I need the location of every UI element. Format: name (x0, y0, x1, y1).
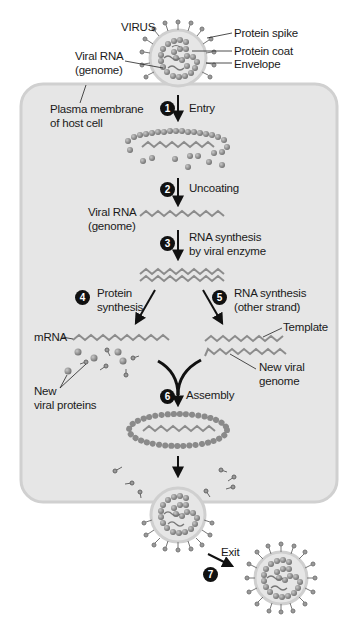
released-virus-icon (245, 542, 317, 614)
label-new-viral-proteins-2: viral proteins (34, 399, 96, 412)
step-5-label-1: RNA synthesis (234, 287, 306, 300)
label-plasma-membrane-1: Plasma membrane (50, 103, 144, 116)
label-new-viral-genome-1: New viral (259, 361, 305, 374)
label-protein-spike: Protein spike (234, 27, 298, 40)
label-new-viral-genome-2: genome (259, 375, 299, 388)
label-viral-rna-top-1: Viral RNA (75, 50, 123, 63)
step-6-label: Assembly (186, 389, 234, 402)
label-viral-rna-2: (genome) (88, 220, 136, 233)
label-viral-rna-top-2: (genome) (75, 64, 123, 77)
step-2-label: Uncoating (189, 182, 239, 195)
step-5-label-2: (other strand) (234, 301, 300, 314)
step-4-label-2: synthesis (97, 301, 143, 314)
step-2-badge: 2 (160, 182, 175, 197)
diagram-canvas (0, 0, 358, 617)
virus-title: VIRUS (121, 21, 155, 34)
label-mrna: mRNA (34, 331, 67, 344)
step-4-badge: 4 (75, 290, 90, 305)
step-7-badge: 7 (203, 567, 218, 582)
label-protein-coat: Protein coat (234, 45, 293, 58)
step-1-badge: 1 (160, 101, 175, 116)
step-6-badge: 6 (160, 389, 175, 404)
step-5-badge: 5 (212, 290, 227, 305)
step-3-badge: 3 (160, 236, 175, 251)
label-plasma-membrane-2: of host cell (50, 117, 103, 130)
step-4-label-1: Protein (97, 287, 132, 300)
step-1-label: Entry (189, 102, 215, 115)
label-envelope: Envelope (234, 58, 280, 71)
step-3-label-2: by viral enzyme (189, 245, 266, 258)
step-7-label: Exit (221, 546, 239, 559)
label-viral-rna-1: Viral RNA (88, 206, 136, 219)
step-3-label-1: RNA synthesis (189, 231, 261, 244)
label-new-viral-proteins-1: New (34, 385, 56, 398)
label-template: Template (283, 321, 328, 334)
